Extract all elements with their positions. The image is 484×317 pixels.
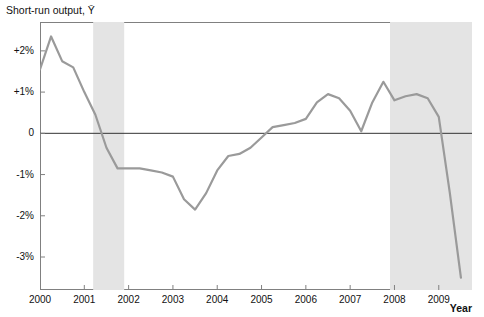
x-tick-label: 2000 — [20, 294, 60, 305]
x-tick-label: 2006 — [286, 294, 326, 305]
y-tick-label: -2% — [0, 210, 34, 221]
x-tick-label: 2001 — [64, 294, 104, 305]
line-chart-svg — [40, 22, 472, 290]
y-tick-label: +1% — [0, 86, 34, 97]
plot-area — [40, 22, 472, 290]
recession-band — [390, 22, 472, 290]
x-tick-label: 2004 — [197, 294, 237, 305]
y-tick-label: -1% — [0, 169, 34, 180]
chart-figure: Short-run output, Ȳ Year +2%+1%0-1%-2%-3… — [0, 0, 484, 317]
x-tick-label: 2005 — [242, 294, 282, 305]
y-tick-label: 0 — [0, 127, 34, 138]
x-tick-label: 2008 — [374, 294, 414, 305]
x-tick-label: 2009 — [419, 294, 459, 305]
x-tick-label: 2007 — [330, 294, 370, 305]
x-tick-label: 2002 — [109, 294, 149, 305]
y-axis-label: Short-run output, Ȳ — [6, 4, 95, 16]
x-tick-label: 2003 — [153, 294, 193, 305]
recession-band — [93, 22, 124, 290]
y-tick-label: +2% — [0, 45, 34, 56]
y-tick-label: -3% — [0, 251, 34, 262]
